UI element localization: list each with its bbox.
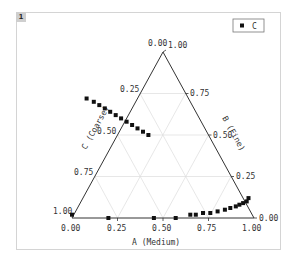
svg-text:0.00: 0.00	[259, 214, 278, 223]
data-point	[241, 201, 245, 205]
data-point	[201, 211, 205, 215]
data-point	[174, 216, 178, 220]
data-point	[141, 130, 145, 134]
svg-text:0.25: 0.25	[107, 224, 126, 233]
b-axis-ticks: 0.00 0.25 0.50 0.75 1.00	[168, 41, 278, 223]
data-point	[136, 126, 140, 130]
data-point	[188, 213, 192, 217]
data-point	[106, 216, 110, 220]
c-axis-ticks: 0.00 0.25 0.50 0.75 1.00	[53, 39, 167, 216]
data-point	[194, 213, 198, 217]
legend-marker-icon	[240, 24, 244, 28]
data-point	[103, 106, 107, 110]
data-point	[97, 103, 101, 107]
a-axis-ticks: 0.00 0.25 0.50 0.75 1.00	[61, 224, 261, 233]
data-point	[114, 113, 118, 117]
data-point	[152, 216, 156, 220]
data-point	[216, 209, 220, 213]
svg-text:0.25: 0.25	[120, 85, 139, 94]
svg-text:0.75: 0.75	[190, 89, 209, 98]
data-point	[247, 196, 251, 200]
svg-text:0.00: 0.00	[148, 39, 167, 48]
svg-text:0.75: 0.75	[74, 168, 93, 177]
data-point	[92, 100, 96, 104]
svg-text:0.00: 0.00	[61, 224, 80, 233]
data-point	[108, 110, 112, 114]
data-point	[228, 206, 232, 210]
legend-label: C	[252, 22, 257, 31]
svg-text:1.00: 1.00	[168, 41, 187, 50]
svg-text:0.50: 0.50	[152, 224, 171, 233]
data-point	[223, 208, 227, 212]
data-point	[70, 213, 74, 217]
data-point	[237, 203, 241, 207]
svg-text:0.25: 0.25	[236, 172, 255, 181]
data-point	[208, 211, 212, 215]
legend: C	[233, 19, 264, 32]
data-point	[119, 116, 123, 120]
svg-text:0.75: 0.75	[197, 224, 216, 233]
data-point	[234, 204, 238, 208]
data-point	[85, 97, 89, 101]
svg-text:1.00: 1.00	[53, 207, 72, 216]
data-point	[146, 133, 150, 137]
a-axis-label: A (Medium)	[132, 238, 180, 247]
svg-text:1.00: 1.00	[242, 224, 261, 233]
ternary-plot: 0.00 0.25 0.50 0.75 1.00 A (Medium) 0.00…	[0, 0, 294, 260]
data-point	[130, 123, 134, 127]
data-point	[125, 120, 129, 124]
